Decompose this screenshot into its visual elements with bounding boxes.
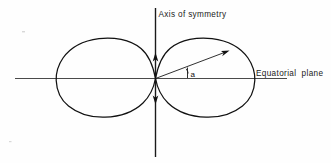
right-lobe-curve — [156, 38, 255, 117]
figure-root: a Axis of symmetry Equatorial plane — [0, 0, 331, 163]
equatorial-plane-label: Equatorial plane — [256, 69, 323, 78]
paper-speck — [9, 141, 12, 142]
axis-of-symmetry-label: Axis of symmetry — [159, 10, 227, 19]
left-lobe-curve — [56, 38, 155, 117]
angle-label: a — [191, 70, 196, 79]
radiation-pattern-diagram: a Axis of symmetry Equatorial plane — [0, 0, 331, 163]
paper-speck — [22, 31, 25, 32]
